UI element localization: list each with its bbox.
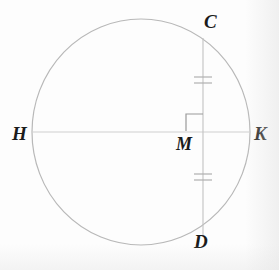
diagram-canvas xyxy=(0,0,279,270)
vertex-label-c: C xyxy=(204,12,217,31)
vertex-label-k: K xyxy=(254,124,267,143)
right-angle-mark-icon xyxy=(186,114,203,131)
vertex-label-d: D xyxy=(194,232,208,251)
geometry-figure: C H K M D xyxy=(0,0,279,270)
vertex-label-h: H xyxy=(12,124,27,143)
vertex-label-m: M xyxy=(176,135,192,153)
